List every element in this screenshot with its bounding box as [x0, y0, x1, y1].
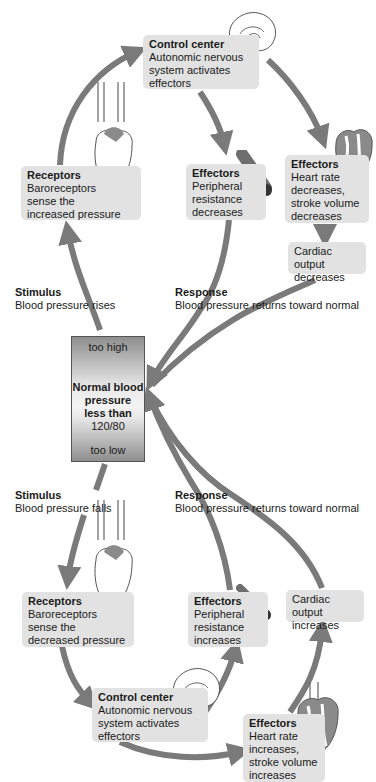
effectors-vessels-box-lower: Effectors Peripheral resistance increase…	[188, 592, 268, 647]
cardiac-output-box-upper: Cardiac output decreases	[288, 242, 366, 274]
arrow-receptors-to-control-low	[62, 646, 90, 702]
effectors-title: Effectors	[192, 167, 260, 180]
arrow-stimulus-to-receptors-up	[68, 232, 100, 330]
effectors-title: Effectors	[194, 595, 262, 608]
arrow-stimulus-to-receptors-low	[68, 515, 84, 578]
effectors-title: Effectors	[249, 717, 319, 730]
receptors-text: Baroreceptors sense the increased pressu…	[27, 182, 135, 221]
effectors-heart-box-upper: Effectors Heart rate decreases, stroke v…	[285, 155, 369, 223]
receptors-box-upper: Receptors Baroreceptors sense the increa…	[21, 166, 141, 220]
control-center-box-upper: Control center Autonomic nervous system …	[143, 35, 259, 89]
cardiac-output-box-lower: Cardiac output increases	[286, 590, 364, 622]
cardiac-output-text: Cardiac output decreases	[294, 245, 360, 284]
control-center-text: Autonomic nervous system activates effec…	[98, 704, 202, 743]
response-label-upper: Response Blood pressure returns toward n…	[175, 286, 359, 312]
normal-value: 120/80	[91, 420, 125, 432]
stimulus-label-lower: Stimulus Blood pressure falls	[15, 489, 112, 515]
normal-title-line-3: less than	[72, 407, 144, 420]
receptors-title: Receptors	[27, 169, 135, 182]
effectors-text: Peripheral resistance increases	[194, 608, 262, 647]
effectors-vessels-box-upper: Effectors Peripheral resistance decrease…	[186, 164, 266, 220]
receptors-title: Receptors	[28, 595, 128, 608]
effectors-title: Effectors	[291, 158, 363, 171]
cardiac-output-text: Cardiac output increases	[292, 593, 358, 632]
normal-blood-pressure-box: too high Normal blood pressure less than…	[71, 336, 145, 462]
control-center-title: Control center	[98, 691, 202, 704]
stimulus-label-upper: Stimulus Blood pressure rises	[15, 286, 115, 312]
control-center-text: Autonomic nervous system activates effec…	[149, 51, 253, 90]
normal-title-line-1: Normal blood	[72, 381, 144, 394]
effectors-text: Heart rate increases, stroke volume incr…	[249, 730, 319, 782]
control-center-box-lower: Control center Autonomic nervous system …	[92, 688, 208, 742]
control-center-title: Control center	[149, 38, 253, 51]
response-label-lower: Response Blood pressure returns toward n…	[175, 489, 359, 515]
arrow-center-to-stimulus-low	[96, 464, 105, 490]
effectors-heart-box-lower: Effectors Heart rate increases, stroke v…	[243, 714, 325, 782]
effectors-text: Peripheral resistance decreases	[192, 180, 260, 219]
too-high-label: too high	[72, 341, 144, 354]
normal-title-line-2: pressure	[72, 394, 144, 407]
arrow-control-to-vessel-up	[200, 92, 224, 144]
too-low-label: too low	[72, 444, 144, 457]
arrow-control-to-heart-up	[268, 60, 322, 138]
receptors-text: Baroreceptors sense the decreased pressu…	[28, 608, 128, 647]
arrow-control-to-heart-low	[120, 742, 240, 757]
effectors-text: Heart rate decreases, stroke volume decr…	[291, 171, 363, 223]
receptors-box-lower: Receptors Baroreceptors sense the decrea…	[22, 592, 134, 647]
